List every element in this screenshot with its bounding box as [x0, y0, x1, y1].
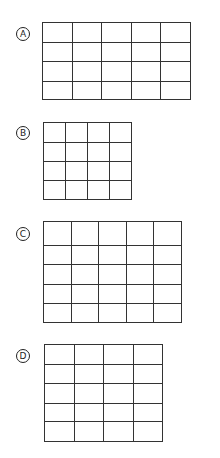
grid-b: [43, 122, 132, 200]
grid-row: [44, 123, 132, 143]
grid-c: [43, 221, 182, 323]
grid-cell: [44, 222, 72, 246]
grid-cell: [131, 62, 161, 82]
grid-cell: [133, 364, 163, 384]
grid-cell: [66, 162, 88, 181]
grid-cell: [126, 265, 154, 285]
grid-cell: [71, 222, 99, 246]
grid-cell: [66, 123, 88, 143]
grid-cell: [126, 304, 154, 323]
grid-cell: [44, 180, 66, 200]
grid-cell: [110, 162, 132, 181]
grid-cell: [72, 23, 102, 43]
grid-row: [43, 81, 191, 100]
grid-cell: [131, 23, 161, 43]
grid-cell: [133, 403, 163, 422]
grid-cell: [44, 123, 66, 143]
grid-cell: [133, 422, 163, 442]
grid-cell: [44, 245, 72, 265]
grid-cell: [154, 284, 182, 304]
grid-cell: [74, 345, 104, 365]
grid-cell: [74, 364, 104, 384]
grid-cell: [110, 123, 132, 143]
grid-cell: [154, 304, 182, 323]
grid-cell: [99, 284, 127, 304]
grid-cell: [99, 245, 127, 265]
grid-cell: [154, 265, 182, 285]
grid-d: [44, 344, 163, 442]
grid-cell: [44, 284, 72, 304]
grid-cell: [44, 142, 66, 162]
grid-cell: [110, 180, 132, 200]
grid-cell: [44, 265, 72, 285]
grid-cell: [43, 81, 73, 100]
grid-row: [44, 265, 182, 285]
grid-cell: [161, 62, 191, 82]
grid-cell: [43, 23, 73, 43]
grid-row: [44, 180, 132, 200]
grid-cell: [43, 42, 73, 62]
grid-cell: [72, 62, 102, 82]
option-label-b: B: [16, 126, 30, 140]
grid-cell: [126, 222, 154, 246]
grid-cell: [161, 23, 191, 43]
grid-cell: [72, 42, 102, 62]
grid-cell: [102, 23, 132, 43]
grid-cell: [44, 304, 72, 323]
grid-cell: [104, 422, 134, 442]
grid-row: [45, 384, 163, 404]
grid-cell: [102, 81, 132, 100]
grid-cell: [161, 42, 191, 62]
grid-cell: [110, 142, 132, 162]
grid-cell: [88, 180, 110, 200]
grid-cell: [99, 222, 127, 246]
grid-a: [42, 22, 191, 100]
grid-cell: [45, 403, 75, 422]
grid-cell: [45, 384, 75, 404]
grid-row: [43, 23, 191, 43]
grid-row: [45, 422, 163, 442]
grid-cell: [102, 42, 132, 62]
option-label-c: C: [16, 227, 30, 241]
grid-row: [43, 62, 191, 82]
grid-cell: [71, 284, 99, 304]
grid-cell: [45, 364, 75, 384]
grid-row: [43, 42, 191, 62]
grid-cell: [131, 42, 161, 62]
grid-row: [45, 364, 163, 384]
grid-cell: [104, 403, 134, 422]
grid-row: [45, 345, 163, 365]
grid-cell: [133, 345, 163, 365]
grid-cell: [88, 123, 110, 143]
grid-cell: [104, 364, 134, 384]
grid-cell: [88, 142, 110, 162]
grid-row: [44, 142, 132, 162]
grid-cell: [43, 62, 73, 82]
grid-cell: [71, 304, 99, 323]
grid-cell: [126, 284, 154, 304]
grid-cell: [161, 81, 191, 100]
grid-cell: [72, 81, 102, 100]
grid-cell: [74, 403, 104, 422]
grid-row: [44, 162, 132, 181]
grid-row: [44, 304, 182, 323]
grid-cell: [131, 81, 161, 100]
grid-row: [45, 403, 163, 422]
grid-cell: [66, 180, 88, 200]
grid-cell: [44, 162, 66, 181]
grid-cell: [45, 422, 75, 442]
grid-cell: [74, 384, 104, 404]
grid-cell: [66, 142, 88, 162]
grid-cell: [154, 245, 182, 265]
grid-cell: [99, 304, 127, 323]
grid-cell: [71, 245, 99, 265]
grid-cell: [104, 384, 134, 404]
grid-cell: [104, 345, 134, 365]
grid-cell: [133, 384, 163, 404]
grid-row: [44, 245, 182, 265]
grid-cell: [74, 422, 104, 442]
grid-cell: [102, 62, 132, 82]
grid-cell: [99, 265, 127, 285]
grid-cell: [88, 162, 110, 181]
grid-cell: [126, 245, 154, 265]
